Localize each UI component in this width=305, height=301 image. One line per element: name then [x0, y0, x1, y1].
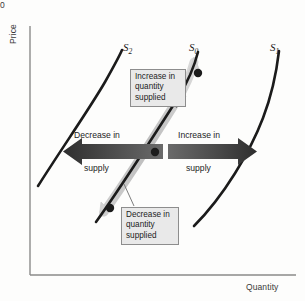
decrease-in-quantity-supplied-callout: Decrease in quantity supplied: [121, 207, 179, 245]
middle-point: [151, 148, 159, 156]
decrease-supply-label-line-1: Decrease in: [74, 130, 120, 140]
increase-supply-label-line-2: supply: [186, 163, 211, 173]
increase-callout-line-3: supplied: [135, 93, 181, 103]
supply-shift-figure: Price Quantity 0 S2 S0 S1 Increase in qu…: [0, 0, 305, 301]
decrease-callout-line-1: Decrease in: [126, 210, 174, 220]
supply-curve-s2: [38, 50, 122, 186]
curve-label-s1-sub: 1: [276, 47, 280, 56]
curve-label-s0: S0: [189, 41, 198, 56]
decrease-callout-leader: [124, 184, 134, 206]
increase-supply-arrow-shape: [168, 138, 257, 165]
curve-label-s2: S2: [123, 41, 132, 56]
decrease-callout-line-3: supplied: [126, 231, 174, 241]
decrease-callout-line-2: quantity: [126, 220, 174, 230]
decrease-supply-label-line-2: supply: [84, 163, 109, 173]
curve-label-s2-sub: 2: [129, 47, 133, 56]
curve-label-s1: S1: [270, 41, 279, 56]
curve-label-s0-sub: 0: [195, 47, 199, 56]
lower-point: [106, 204, 114, 212]
increase-supply-label-line-1: Increase in: [178, 130, 220, 140]
increase-callout-line-2: quantity: [135, 82, 181, 92]
x-axis-label: Quantity: [246, 282, 278, 292]
increase-in-quantity-supplied-callout: Increase in quantity supplied: [130, 69, 186, 107]
increase-in-supply-arrow: [168, 138, 257, 165]
increase-callout-line-1: Increase in: [135, 72, 181, 82]
y-axis-label: Price: [8, 24, 18, 44]
upper-point: [194, 69, 202, 77]
diagram-canvas: [0, 0, 305, 301]
